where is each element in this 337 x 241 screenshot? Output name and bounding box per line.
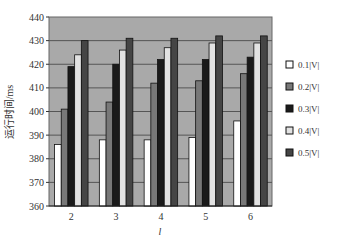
y-tick-label: 370 bbox=[29, 177, 44, 188]
legend-swatch-icon bbox=[286, 127, 293, 134]
bar bbox=[68, 67, 75, 206]
legend-item: 0.3|V| bbox=[286, 104, 320, 114]
bar bbox=[209, 43, 216, 206]
bar bbox=[189, 137, 196, 206]
legend-label: 0.5|V| bbox=[298, 148, 320, 158]
legend-item: 0.5|V| bbox=[286, 148, 320, 158]
legend-swatch-icon bbox=[286, 61, 293, 68]
legend-swatch-icon bbox=[286, 83, 293, 90]
y-tick-label: 380 bbox=[29, 153, 44, 164]
bar bbox=[55, 145, 62, 206]
y-tick-label: 420 bbox=[29, 59, 44, 70]
bar bbox=[99, 140, 106, 206]
bar bbox=[81, 41, 88, 206]
bar bbox=[171, 38, 178, 206]
legend-label: 0.2|V| bbox=[298, 82, 320, 92]
y-tick-label: 360 bbox=[29, 201, 44, 212]
legend-label: 0.4|V| bbox=[298, 126, 320, 136]
bar bbox=[113, 64, 120, 206]
legend: 0.1|V|0.2|V|0.3|V|0.4|V|0.5|V| bbox=[286, 60, 320, 158]
bar bbox=[119, 50, 126, 206]
bar bbox=[106, 102, 113, 206]
x-axis: 23456 bbox=[49, 206, 272, 222]
x-tick-label: 2 bbox=[69, 211, 74, 222]
legend-swatch-icon bbox=[286, 105, 293, 112]
plot-area bbox=[49, 17, 272, 206]
bar-chart: 360370380390400410420430440 23456 运行时间/m… bbox=[0, 0, 337, 241]
bar bbox=[126, 38, 133, 206]
y-tick-label: 440 bbox=[29, 12, 44, 23]
y-axis: 360370380390400410420430440 bbox=[29, 12, 49, 212]
y-tick-label: 400 bbox=[29, 106, 44, 117]
legend-item: 0.4|V| bbox=[286, 126, 320, 136]
y-axis-title: 运行时间/ms bbox=[3, 85, 15, 140]
bar bbox=[196, 81, 203, 206]
bar bbox=[164, 48, 171, 206]
y-tick-label: 410 bbox=[29, 82, 44, 93]
legend-item: 0.1|V| bbox=[286, 60, 320, 70]
bar bbox=[254, 43, 261, 206]
x-tick-label: 3 bbox=[114, 211, 119, 222]
bar bbox=[75, 55, 82, 206]
y-tick-label: 390 bbox=[29, 130, 44, 141]
legend-swatch-icon bbox=[286, 149, 293, 156]
legend-label: 0.1|V| bbox=[298, 60, 320, 70]
x-tick-label: 6 bbox=[248, 211, 253, 222]
x-axis-title: l bbox=[159, 226, 162, 237]
bar bbox=[240, 74, 247, 206]
x-tick-label: 5 bbox=[203, 211, 208, 222]
legend-item: 0.2|V| bbox=[286, 82, 320, 92]
bar bbox=[61, 109, 68, 206]
bar bbox=[216, 36, 223, 206]
bar bbox=[234, 121, 241, 206]
bar bbox=[158, 60, 165, 206]
legend-label: 0.3|V| bbox=[298, 104, 320, 114]
bar bbox=[144, 140, 151, 206]
bar bbox=[247, 57, 254, 206]
bar bbox=[151, 83, 158, 206]
bar bbox=[261, 36, 268, 206]
y-tick-label: 430 bbox=[29, 35, 44, 46]
bar bbox=[202, 60, 209, 206]
x-tick-label: 4 bbox=[158, 211, 163, 222]
